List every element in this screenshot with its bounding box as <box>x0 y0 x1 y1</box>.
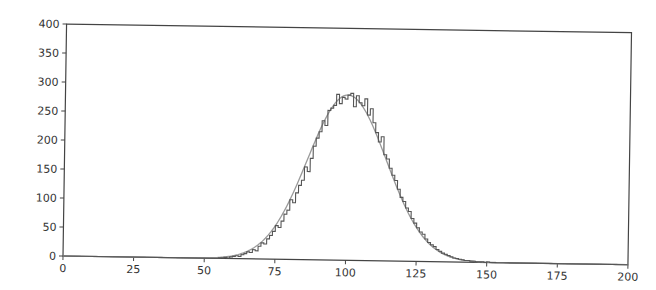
y-tick-label: 50 <box>42 221 56 234</box>
plot-frame <box>63 24 631 265</box>
x-tick-label: 100 <box>335 266 356 279</box>
x-tick-label: 175 <box>547 269 568 282</box>
y-axis: 050100150200250300350400 <box>35 18 67 263</box>
y-tick-label: 400 <box>38 18 59 31</box>
y-tick-label: 350 <box>38 47 59 60</box>
x-tick-label: 0 <box>59 262 66 275</box>
histogram-step-line <box>63 89 630 265</box>
x-tick-label: 150 <box>476 268 497 281</box>
y-tick-label: 150 <box>36 163 57 176</box>
x-tick-label: 200 <box>617 271 638 284</box>
histogram-chart: 050100150200250300350400 025507510012515… <box>0 0 656 290</box>
y-tick-label: 250 <box>37 105 58 118</box>
normal-fit-curve <box>63 91 630 265</box>
chart-canvas: 050100150200250300350400 025507510012515… <box>0 0 656 290</box>
x-tick-label: 125 <box>405 267 426 280</box>
y-tick-label: 300 <box>38 76 59 89</box>
x-tick-label: 25 <box>126 263 140 276</box>
y-tick-label: 100 <box>36 192 57 205</box>
x-tick-label: 75 <box>268 265 282 278</box>
y-tick-label: 200 <box>37 134 58 147</box>
x-tick-label: 50 <box>197 264 211 277</box>
y-tick-label: 0 <box>49 250 56 263</box>
